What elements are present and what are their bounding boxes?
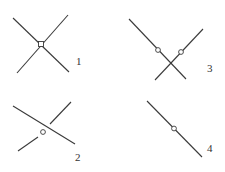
circle-marker-icon [156,48,161,53]
figure-label-4: 4 [207,143,213,154]
figure-3 [129,19,203,80]
line-broken-upper [50,102,71,124]
figure-2 [13,102,75,151]
line-broken-lower [18,137,38,151]
circle-marker-icon [172,126,177,131]
diagram-canvas [0,0,225,172]
figure-1 [13,15,69,73]
figure-label-3: 3 [207,63,213,74]
square-marker-icon [39,42,44,47]
circle-marker-icon [41,130,46,135]
figure-label-2: 2 [75,152,81,163]
line-continuous [13,106,75,144]
figure-label-1: 1 [76,56,82,67]
figure-4 [147,101,202,157]
circle-marker-icon [179,50,184,55]
